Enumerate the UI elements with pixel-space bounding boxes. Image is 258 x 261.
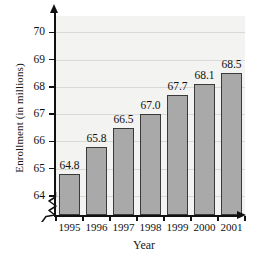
x-axis-tick [55,216,56,221]
x-axis-tick [244,216,245,221]
bar [167,95,188,215]
bar-value-label: 67.0 [132,99,170,111]
bar [140,114,161,215]
x-axis-tick [136,216,137,221]
y-axis-tick-label: 65 [5,162,45,174]
gridline [56,32,245,33]
bar-value-label: 65.8 [78,132,116,144]
y-axis-tick [49,59,56,60]
y-axis-tick [49,86,56,87]
bar-chart: Enrollment (in millions) Year 6465666768… [0,0,258,261]
y-axis-tick-label: 69 [5,53,45,65]
y-axis-tick-label: 67 [5,107,45,119]
bar [194,84,215,215]
bar-value-label: 68.1 [186,69,224,81]
plot-area [56,16,245,215]
y-axis-tick [49,195,56,196]
y-axis-tick [49,113,56,114]
bar-value-label: 66.5 [105,113,143,125]
bar-value-label: 68.5 [213,58,251,70]
bar [86,147,107,215]
y-axis-tick [49,141,56,142]
bar [113,128,134,215]
x-axis-tick [190,216,191,221]
y-axis-arrowhead-icon [50,4,58,13]
x-axis-tick [82,216,83,221]
y-axis-tick-label: 68 [5,80,45,92]
x-axis-tick [217,216,218,221]
gridline [56,87,245,88]
bar-value-label: 67.7 [159,80,197,92]
bar-value-label: 64.8 [51,159,89,171]
x-axis-tick [163,216,164,221]
y-axis-tick-label: 70 [5,25,45,37]
y-axis-tick-label: 66 [5,134,45,146]
bar [221,73,242,215]
y-axis-tick-label: 64 [5,189,45,201]
x-axis-title: Year [44,238,244,253]
x-axis-tick-label: 2001 [215,221,249,233]
y-axis-tick [49,32,56,33]
x-axis-tick [109,216,110,221]
